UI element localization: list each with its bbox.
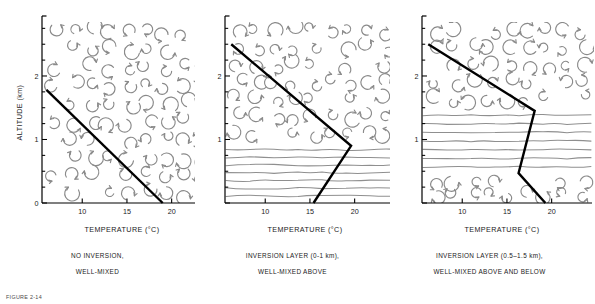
svg-text:10: 10 <box>261 207 269 216</box>
svg-text:15: 15 <box>306 207 314 216</box>
chart-panel-3: 101520TEMPERATURE (°C)12 INVERSION LAYER… <box>392 0 587 304</box>
svg-text:ALTITUDE (km): ALTITUDE (km) <box>15 85 24 141</box>
svg-text:10: 10 <box>78 207 86 216</box>
svg-text:20: 20 <box>168 207 176 216</box>
panel-3-svg: 101520TEMPERATURE (°C)12 <box>392 0 595 245</box>
chart-panel-1: 101520TEMPERATURE (°C)012ALTITUDE (km) N… <box>0 0 195 304</box>
svg-text:TEMPERATURE (°C): TEMPERATURE (°C) <box>84 225 159 234</box>
svg-text:1: 1 <box>415 135 419 144</box>
panel-1-caption-line1: NO INVERSION, <box>0 252 195 259</box>
panel-1-caption-line2: WELL-MIXED <box>0 268 195 275</box>
panel-3-caption-line1: INVERSION LAYER (0.5–1.5 km), <box>392 252 587 259</box>
svg-text:15: 15 <box>123 207 131 216</box>
panel-2-caption-line1: INVERSION LAYER (0-1 km), <box>195 252 390 259</box>
svg-text:10: 10 <box>458 207 466 216</box>
svg-text:1: 1 <box>218 135 222 144</box>
svg-text:2: 2 <box>35 72 39 81</box>
figure-number-label: FIGURE 2-14 <box>6 294 42 300</box>
svg-text:0: 0 <box>35 199 39 208</box>
svg-text:TEMPERATURE (°C): TEMPERATURE (°C) <box>267 225 342 234</box>
svg-text:TEMPERATURE (°C): TEMPERATURE (°C) <box>464 225 539 234</box>
svg-text:15: 15 <box>503 207 511 216</box>
svg-text:2: 2 <box>415 72 419 81</box>
panel-2-svg: 101520TEMPERATURE (°C)12 <box>195 0 390 245</box>
panel-3-caption-line2: WELL-MIXED ABOVE AND BELOW <box>392 268 587 275</box>
figure-container: 101520TEMPERATURE (°C)012ALTITUDE (km) N… <box>0 0 595 304</box>
panel-2-caption-line2: WELL-MIXED ABOVE <box>195 268 390 275</box>
svg-text:1: 1 <box>35 135 39 144</box>
svg-text:20: 20 <box>548 207 556 216</box>
panel-1-svg: 101520TEMPERATURE (°C)012ALTITUDE (km) <box>0 0 195 245</box>
chart-panel-2: 101520TEMPERATURE (°C)12 INVERSION LAYER… <box>195 0 390 304</box>
svg-text:2: 2 <box>218 72 222 81</box>
svg-text:20: 20 <box>351 207 359 216</box>
